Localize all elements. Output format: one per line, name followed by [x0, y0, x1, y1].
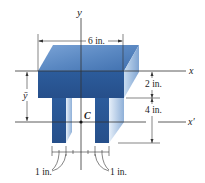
- centroid-label: C: [84, 110, 91, 121]
- leg-left-width-label: 1 in.: [35, 167, 52, 177]
- dimension-ybar: ȳ: [22, 72, 32, 121]
- x-axis-label: x: [188, 65, 194, 76]
- y-axis-label: y: [76, 6, 82, 18]
- flange-top-face: [38, 45, 139, 71]
- x-prime-axis-label: x′: [187, 116, 195, 127]
- top-flange: [38, 45, 139, 98]
- right-leg: [95, 98, 124, 143]
- svg-text:6 in.: 6 in.: [88, 36, 105, 46]
- leg-right-width-label: 1 in.: [110, 167, 127, 177]
- svg-text:4 in.: 4 in.: [145, 105, 162, 115]
- svg-text:2 in.: 2 in.: [145, 79, 162, 89]
- svg-text:ȳ: ȳ: [22, 90, 28, 101]
- centroid-point: [79, 120, 82, 123]
- left-leg: [52, 98, 72, 143]
- beam-cross-section-diagram: y x x′ C 6 in. 2 in. 4 in.: [0, 0, 205, 183]
